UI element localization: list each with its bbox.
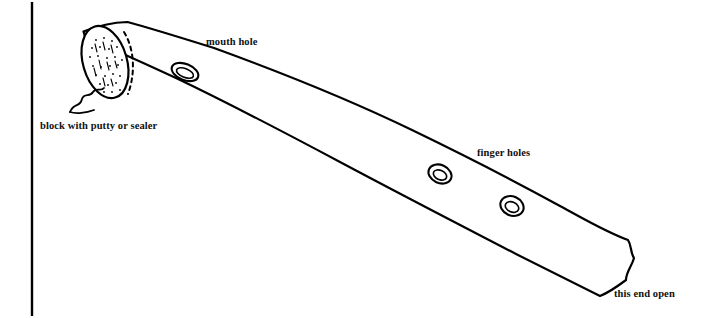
block-leader-tail <box>70 110 94 113</box>
diagram-page: mouth hole block with putty or sealer fi… <box>0 0 709 318</box>
flute-diagram <box>0 0 709 318</box>
label-finger-holes: finger holes <box>477 147 530 158</box>
label-block-with-putty-or-sealer: block with putty or sealer <box>40 120 157 131</box>
label-this-end-open: this end open <box>614 288 675 299</box>
tube-body-outline <box>84 22 635 296</box>
label-mouth-hole: mouth hole <box>206 36 257 47</box>
